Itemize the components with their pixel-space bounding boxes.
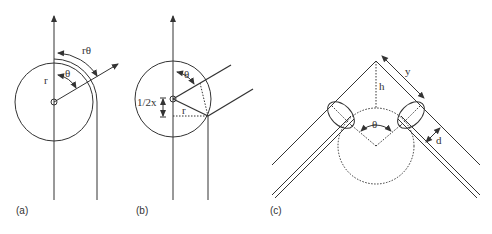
right-angle-ray (376, 124, 402, 146)
label-theta: θ (65, 67, 70, 79)
lower-radius-line (173, 99, 208, 116)
panel-b (135, 16, 253, 200)
figure: r θ rθ (a) θ 1/2x r (b) (0, 0, 492, 234)
caption-c: (c) (270, 205, 282, 216)
label-h: h (379, 80, 385, 92)
dotted-normal (200, 83, 208, 116)
caption-b: (b) (136, 205, 148, 216)
panel-a (15, 16, 118, 200)
label-r-theta: rθ (82, 44, 91, 56)
left-inner-line-2 (275, 119, 354, 198)
label-d: d (436, 134, 442, 146)
y-dimension-arrow (382, 56, 424, 98)
upper-sheet-line (173, 65, 231, 99)
label-theta: θ (372, 118, 377, 130)
label-r: r (182, 104, 186, 116)
label-r: r (44, 74, 48, 86)
lower-sheet-line (208, 89, 253, 116)
radial-arrow (54, 64, 118, 102)
caption-a: (a) (16, 205, 28, 216)
label-y: y (405, 65, 411, 77)
left-inner-line-1 (272, 116, 351, 195)
label-half-x: 1/2x (137, 96, 157, 108)
label-theta: θ (184, 68, 189, 80)
